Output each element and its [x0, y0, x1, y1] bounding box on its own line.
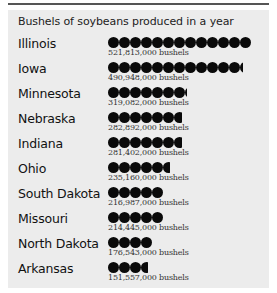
soybean-circle-icon [152, 187, 163, 198]
soybean-circle-icon [108, 87, 119, 98]
soybean-circle-icon [119, 112, 130, 123]
soybean-circle-icon [108, 37, 119, 48]
soybean-circle-icon [108, 137, 119, 148]
soybean-circle-icon [130, 162, 141, 173]
state-label: Iowa [18, 61, 46, 76]
pictograph-row: Nebraska282,892,000 bushels [8, 111, 269, 136]
soybean-circle-icon [108, 62, 119, 73]
state-label: Missouri [18, 211, 68, 226]
soybean-circle-icon [119, 187, 130, 198]
soybean-circle-icon [108, 187, 119, 198]
soybean-circle-icon [207, 37, 218, 48]
state-label: North Dakota [18, 236, 99, 251]
soybean-circle-icon [130, 37, 141, 48]
soybean-circle-icon [130, 87, 141, 98]
soybean-circle-icon [119, 162, 130, 173]
bushel-value: 281,402,000 bushels [108, 148, 189, 157]
state-label: Illinois [18, 36, 56, 51]
soybean-circle-icon [218, 37, 229, 48]
pictograph-row: Missouri214,445,000 bushels [8, 211, 269, 236]
state-label: Nebraska [18, 111, 75, 126]
soybean-circle-icon [141, 87, 152, 98]
soybean-circle-icon [185, 62, 196, 73]
partial-soybean-circle-icon [163, 162, 170, 173]
partial-soybean-circle-icon [240, 62, 243, 73]
soybean-circle-icon [174, 87, 185, 98]
soybean-circle-icon [163, 112, 174, 123]
state-label: Minnesota [18, 86, 81, 101]
soybean-circle-icon [130, 187, 141, 198]
soybean-circle-icon [130, 137, 141, 148]
soybean-circle-icon [152, 212, 163, 223]
chart-title: Bushels of soybeans produced in a year [18, 15, 234, 28]
soybean-circle-icon [196, 37, 207, 48]
state-label: South Dakota [18, 186, 100, 201]
soybean-circle-icon [174, 37, 185, 48]
partial-soybean-circle-icon [174, 137, 182, 148]
soybean-circle-icon [108, 112, 119, 123]
soybean-circle-icon [141, 37, 152, 48]
soybean-circle-icon [119, 262, 130, 273]
pictograph-row: North Dakota176,543,000 bushels [8, 236, 269, 261]
bushel-value: 216,987,000 bushels [108, 198, 189, 207]
soybean-circle-icon [119, 212, 130, 223]
bushel-value: 319,082,000 bushels [108, 98, 189, 107]
soybean-circle-icon [130, 62, 141, 73]
pictograph-row: Ohio235,160,000 bushels [8, 161, 269, 186]
bushel-value: 151,557,000 bushels [108, 273, 189, 282]
soybean-circle-icon [141, 212, 152, 223]
soybean-circle-icon [152, 87, 163, 98]
soybean-circle-icon [119, 237, 130, 248]
bushel-value: 490,948,000 bushels [108, 73, 189, 82]
soybean-circle-icon [130, 262, 141, 273]
soybean-circle-icon [130, 212, 141, 223]
state-label: Arkansas [18, 261, 73, 276]
soybean-circle-icon [141, 187, 152, 198]
soybean-circle-icon [174, 62, 185, 73]
bushel-value: 282,892,000 bushels [108, 123, 189, 132]
soybean-circle-icon [119, 62, 130, 73]
bushel-value: 214,445,000 bushels [108, 223, 189, 232]
bushel-value: 176,543,000 bushels [108, 248, 189, 257]
soybean-circle-icon [229, 37, 240, 48]
soybean-circle-icon [207, 62, 218, 73]
soybean-circle-icon [130, 237, 141, 248]
soybean-circle-icon [141, 137, 152, 148]
soybean-circle-icon [152, 112, 163, 123]
partial-soybean-circle-icon [141, 262, 148, 273]
soybean-circle-icon [108, 212, 119, 223]
pictograph-row: Arkansas151,557,000 bushels [8, 261, 269, 286]
soybean-circle-icon [108, 262, 119, 273]
pictograph-row: Illinois521,813,000 bushels [8, 36, 269, 61]
state-label: Ohio [18, 161, 46, 176]
pictograph-panel: Bushels of soybeans produced in a year I… [8, 10, 269, 288]
soybean-circle-icon [163, 87, 174, 98]
soybean-circle-icon [130, 112, 141, 123]
bushel-value: 521,813,000 bushels [108, 48, 189, 57]
partial-soybean-circle-icon [174, 112, 182, 123]
soybean-circle-icon [141, 237, 152, 248]
soybean-circle-icon [196, 62, 207, 73]
pictograph-row: Minnesota319,082,000 bushels [8, 86, 269, 111]
soybean-circle-icon [163, 37, 174, 48]
soybean-circle-icon [185, 37, 196, 48]
soybean-circle-icon [163, 137, 174, 148]
soybean-circle-icon [152, 137, 163, 148]
soybean-circle-icon [141, 62, 152, 73]
pictograph-row: Iowa490,948,000 bushels [8, 61, 269, 86]
soybean-circle-icon [163, 62, 174, 73]
partial-soybean-circle-icon [185, 87, 187, 98]
soybean-circle-icon [229, 62, 240, 73]
state-label: Indiana [18, 136, 63, 151]
soybean-circle-icon [152, 162, 163, 173]
soybean-circle-icon [141, 112, 152, 123]
soybean-circle-icon [119, 87, 130, 98]
soybean-circle-icon [119, 37, 130, 48]
soybean-circle-icon [218, 62, 229, 73]
pictograph-row: Indiana281,402,000 bushels [8, 136, 269, 161]
soybean-circle-icon [108, 237, 119, 248]
soybean-circle-icon [152, 62, 163, 73]
soybean-circle-icon [152, 37, 163, 48]
soybean-circle-icon [108, 162, 119, 173]
soybean-circle-icon [240, 37, 251, 48]
